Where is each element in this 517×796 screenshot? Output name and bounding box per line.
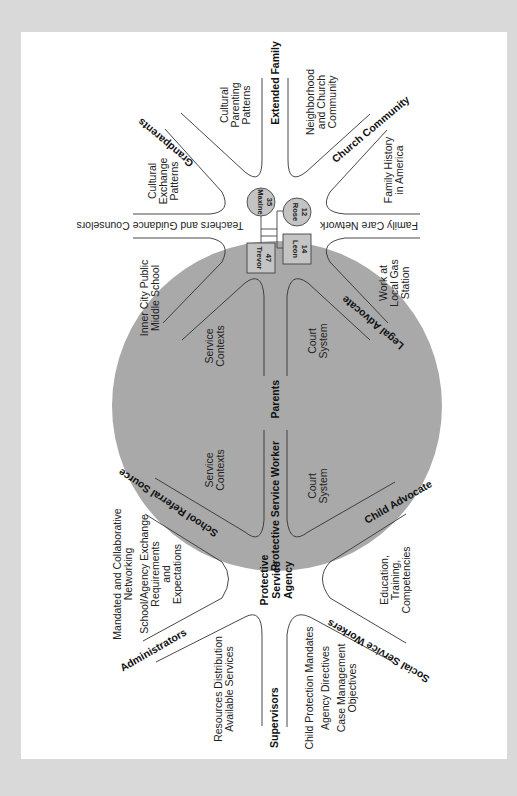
label-family-care: Family Care Network — [319, 220, 418, 232]
label-administrators: Administrators — [118, 626, 189, 674]
svg-text:Contexts: Contexts — [214, 449, 226, 490]
svg-text:Agency: Agency — [282, 561, 294, 599]
node-rose: Rose 12 — [283, 198, 311, 226]
svg-text:Maxine: Maxine — [256, 189, 265, 214]
node-maxine: Maxine 35 — [247, 188, 275, 216]
text-inner-city-school: Inner City Public Middle School — [138, 260, 161, 336]
svg-text:Expectations: Expectations — [171, 544, 183, 604]
svg-text:Trevor: Trevor — [255, 247, 264, 270]
label-teachers: Teachers and Guidance Counselors — [77, 220, 244, 232]
text-education-training: Education, Training, Competencies — [378, 546, 412, 613]
text-family-history: Family History in America — [382, 136, 405, 203]
text-resources-distribution: Resources Distribution Available Service… — [212, 636, 235, 742]
svg-text:Station: Station — [399, 267, 411, 300]
text-cultural-parenting: Cultural Parenting Patterns — [218, 82, 252, 127]
svg-text:14: 14 — [300, 245, 309, 254]
svg-text:Networking: Networking — [122, 548, 134, 601]
label-supervisors: Supervisors — [268, 687, 280, 748]
svg-text:47: 47 — [264, 254, 273, 262]
svg-text:Community: Community — [326, 75, 338, 129]
svg-text:Contexts: Contexts — [214, 325, 226, 366]
svg-text:System: System — [317, 468, 329, 503]
svg-text:Rose: Rose — [291, 203, 300, 221]
text-child-protection: Child Protection Mandates Agency Directi… — [303, 626, 358, 749]
text-court-system-upper: Court System — [306, 323, 329, 358]
svg-text:Agency Directives: Agency Directives — [319, 646, 331, 730]
curve-church-familycare — [326, 130, 420, 214]
svg-text:Available Services: Available Services — [223, 646, 235, 732]
svg-text:12: 12 — [300, 208, 309, 216]
node-trevor: Trevor 47 — [247, 243, 275, 273]
text-cultural-exchange: Cultural Exchange Patterns — [146, 157, 180, 204]
svg-text:Patterns: Patterns — [168, 161, 180, 200]
text-work-gas-station: Work at Local Gas Station — [377, 259, 411, 306]
text-service-contexts-upper: Service Contexts — [203, 325, 226, 366]
svg-text:Patterns: Patterns — [240, 85, 252, 124]
text-neighborhood: Neighborhood and Church Community — [304, 69, 338, 135]
ecomap-diagram: Maxine 35 Rose 12 Trevor 47 Leon 14 Gran… — [0, 0, 517, 796]
svg-text:Middle School: Middle School — [149, 265, 161, 331]
svg-text:Leon: Leon — [291, 240, 300, 258]
svg-text:35: 35 — [265, 198, 274, 206]
svg-text:Service: Service — [270, 561, 282, 599]
svg-text:System: System — [317, 323, 329, 358]
text-court-system-lower: Court System — [306, 468, 329, 503]
label-parents: Parents — [269, 380, 281, 419]
svg-text:in America: in America — [393, 145, 405, 194]
node-leon: Leon 14 — [283, 234, 311, 264]
svg-text:Protective: Protective — [258, 554, 270, 605]
svg-text:Objectives: Objectives — [346, 663, 358, 712]
svg-text:Child Protection Mandates: Child Protection Mandates — [303, 626, 315, 749]
text-service-contexts-lower: Service Contexts — [203, 449, 226, 490]
label-extended-family: Extended Family — [269, 41, 281, 125]
label-protective-service-agency: Protective Service Agency — [258, 554, 294, 605]
svg-text:Competencies: Competencies — [400, 546, 412, 613]
label-protective-service-worker: Protective Service Worker — [269, 441, 281, 571]
